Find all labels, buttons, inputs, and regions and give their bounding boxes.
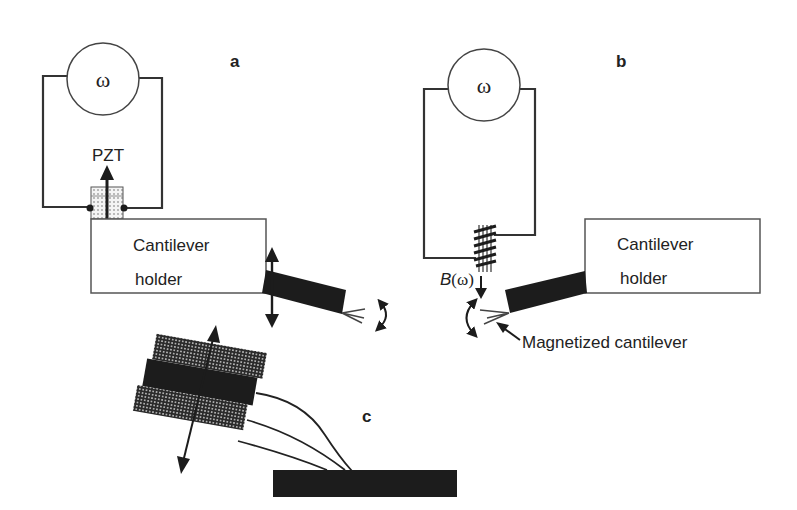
panel-c-label: c — [362, 407, 371, 426]
cantilever-beam-top — [256, 393, 352, 471]
panel-b-magnetized-cantilever — [505, 271, 587, 313]
pzt-label: PZT — [92, 146, 124, 165]
panel-b-oscillation-arrow-icon — [467, 302, 475, 334]
panel-b-holder-line2: holder — [620, 269, 668, 288]
panel-c-up-arrow-icon — [207, 325, 220, 343]
cantilever-beam-middle — [247, 420, 345, 470]
panel-a-up-arrow-icon — [265, 247, 279, 262]
pzt-arrowhead-icon — [100, 165, 114, 180]
panel-a-down-arrow-icon — [265, 314, 279, 328]
field-down-arrow-icon — [475, 288, 487, 299]
panel-b-cantilever-tip — [480, 310, 509, 324]
panel-a-cantilever-tip — [342, 309, 365, 323]
substrate — [273, 470, 457, 497]
panel-b-omega-symbol: ω — [477, 73, 491, 98]
panel-b-signal-source: ω — [448, 49, 520, 121]
panel-a-cantilever — [262, 270, 346, 314]
panel-b-label: b — [616, 52, 626, 71]
field-argument: (ω) — [451, 270, 474, 289]
electromagnet-coil-icon — [474, 225, 496, 272]
pzt-right-contact — [121, 205, 128, 212]
panel-c-down-arrow-icon — [177, 456, 190, 474]
magnetized-cantilever-label: Magnetized cantilever — [522, 333, 688, 352]
panel-b-holder-line1: Cantilever — [617, 235, 694, 254]
panel-a-oscillation-arrow-icon — [379, 303, 386, 328]
field-symbol: B — [440, 270, 451, 289]
panel-a-signal-source: ω — [67, 43, 139, 115]
panel-a-omega-symbol: ω — [96, 67, 110, 92]
pzt-left-contact — [87, 205, 94, 212]
panel-b-cantilever-holder — [585, 219, 760, 293]
panel-b: b ω B(ω) Cantilever holder — [424, 49, 760, 352]
diagram-figure: a ω PZT Cantilever holder b — [0, 0, 797, 510]
cantilever-beam-bottom — [238, 441, 327, 470]
magnetic-field-label: B(ω) — [440, 270, 474, 289]
panel-c-holder-block — [133, 332, 267, 432]
panel-a-label: a — [230, 52, 240, 71]
panel-a-holder-line2: holder — [135, 270, 183, 289]
panel-a-holder-line1: Cantilever — [133, 236, 210, 255]
panel-c: c — [133, 325, 457, 497]
panel-a: a ω PZT Cantilever holder — [43, 43, 386, 328]
